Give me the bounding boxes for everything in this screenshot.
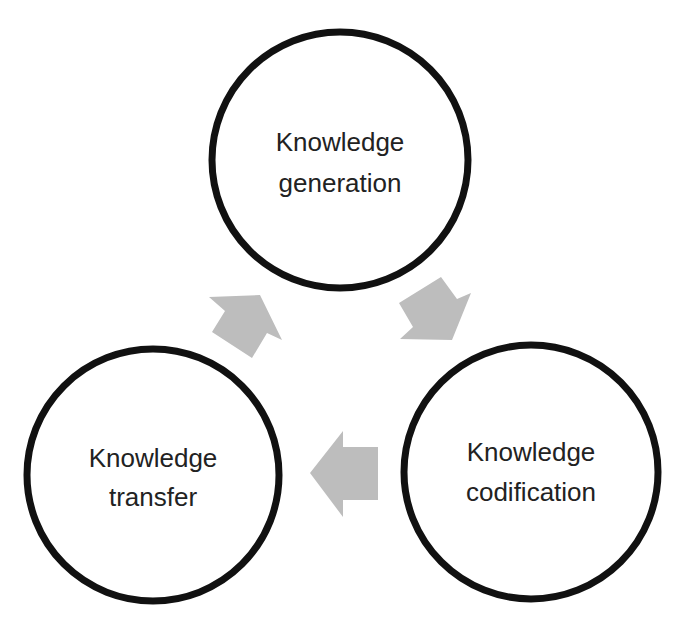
knowledge-cycle-diagram: Knowledge generation Knowledge codificat… <box>0 0 679 632</box>
node-label-generation-line1: Knowledge <box>276 127 405 157</box>
node-label-transfer-line2: transfer <box>109 482 197 512</box>
node-knowledge-transfer: Knowledge transfer <box>27 349 279 601</box>
arrow-left-icon <box>310 431 378 517</box>
arrow-down-right-icon <box>399 277 471 340</box>
node-knowledge-codification: Knowledge codification <box>404 345 658 599</box>
node-circle-generation <box>212 32 468 288</box>
node-circle-transfer <box>27 349 279 601</box>
node-label-codification-line2: codification <box>466 477 596 507</box>
arrow-up-right-icon <box>209 295 282 358</box>
node-circle-codification <box>404 345 658 599</box>
node-knowledge-generation: Knowledge generation <box>212 32 468 288</box>
node-label-codification-line1: Knowledge <box>467 437 596 467</box>
node-label-generation-line2: generation <box>279 168 402 198</box>
node-label-transfer-line1: Knowledge <box>89 443 218 473</box>
